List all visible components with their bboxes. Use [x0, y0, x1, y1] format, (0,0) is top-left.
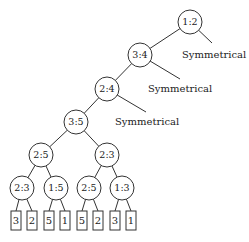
comparison-label: 3:5	[68, 116, 83, 127]
tree-nodes: 1:23:42:43:52:52:32:31:52:51:3	[10, 10, 202, 200]
leaf-label: 2	[29, 215, 35, 226]
comparison-label: 2:4	[99, 83, 114, 94]
leaf-label: 5	[46, 215, 52, 226]
symmetrical-label: Symmetrical	[182, 49, 246, 60]
leaf-label: 3	[112, 215, 118, 226]
decision-tree-diagram: SymmetricalSymmetricalSymmetrical 1:23:4…	[0, 0, 249, 242]
comparison-label: 1:5	[48, 182, 63, 193]
tree-leaves: 32515231	[11, 211, 136, 230]
symmetrical-branches: SymmetricalSymmetricalSymmetrical	[107, 22, 246, 127]
comparison-label: 2:3	[14, 182, 29, 193]
leaf-label: 2	[95, 215, 101, 226]
leaf-label: 5	[79, 215, 85, 226]
comparison-label: 1:2	[182, 16, 197, 27]
leaf-label: 1	[128, 215, 134, 226]
comparison-label: 2:5	[33, 149, 48, 160]
symmetrical-label: Symmetrical	[148, 83, 212, 94]
comparison-label: 1:3	[114, 182, 129, 193]
comparison-label: 2:5	[81, 182, 96, 193]
leaf-label: 1	[62, 215, 68, 226]
comparison-label: 3:4	[132, 49, 147, 60]
symmetrical-label: Symmetrical	[115, 116, 179, 127]
leaf-label: 3	[13, 215, 19, 226]
comparison-label: 2:3	[99, 149, 114, 160]
